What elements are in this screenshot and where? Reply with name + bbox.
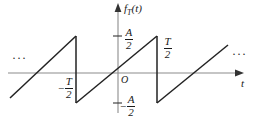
ramp-segment-center — [76, 36, 157, 103]
fraction-neg-a-over-2: A2 — [127, 94, 136, 118]
fraction-denominator: 2 — [127, 107, 136, 118]
continuation-ellipsis-right: ··· — [232, 48, 247, 60]
tick-label-t-positive: T2 — [163, 36, 172, 60]
waveform-curve — [10, 36, 228, 103]
tick-label-a-positive: A2 — [124, 27, 133, 51]
tick-label-t-negative: −T2 — [58, 76, 73, 100]
tick-label-a-negative-sign: − — [120, 101, 127, 112]
y-axis-label-arg: (t) — [132, 2, 142, 14]
fraction-denominator: 2 — [65, 89, 73, 101]
fraction-denominator: 2 — [164, 49, 172, 61]
sawtooth-waveform-figure: fT(t) t O A2 −A2 −T2 T2 ··· ··· — [0, 0, 253, 118]
fraction-numerator: A — [125, 27, 134, 40]
y-axis-label: fT(t) — [124, 3, 142, 17]
fraction-a-over-2: A2 — [125, 27, 134, 51]
fraction-numerator: T — [65, 76, 73, 89]
y-axis-arrow — [115, 3, 122, 12]
origin-label: O — [121, 75, 128, 85]
fraction-numerator: T — [164, 36, 172, 49]
tick-label-a-negative: −A2 — [120, 94, 135, 118]
fraction-denominator: 2 — [125, 40, 134, 52]
x-axis-arrow — [235, 70, 244, 77]
tick-label-t-negative-sign: − — [58, 83, 65, 94]
continuation-ellipsis-left: ··· — [12, 52, 27, 64]
fraction-numerator: A — [127, 94, 136, 107]
fraction-neg-t-over-2: T2 — [65, 76, 73, 100]
fraction-t-over-2: T2 — [164, 36, 172, 60]
x-axis-label: t — [241, 78, 244, 89]
